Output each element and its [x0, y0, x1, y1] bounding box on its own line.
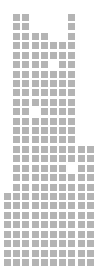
grid-cell — [59, 136, 66, 143]
grid-cell — [41, 99, 48, 106]
grid-cell — [68, 108, 75, 115]
grid-cell — [13, 99, 20, 106]
grid-cell — [59, 118, 66, 125]
grid-cell — [50, 80, 57, 87]
grid-cell — [32, 231, 39, 238]
grid-cell — [32, 202, 39, 209]
grid-cell — [59, 52, 66, 59]
grid-cell — [32, 184, 39, 191]
grid-cell — [22, 259, 29, 266]
grid-cell — [41, 80, 48, 87]
grid-cell — [22, 33, 29, 40]
grid-cell — [22, 174, 29, 181]
grid-cell — [32, 146, 39, 153]
grid-cell — [59, 146, 66, 153]
grid-cell — [13, 155, 20, 162]
grid-cell — [50, 155, 57, 162]
grid-cell — [68, 212, 75, 219]
grid-cell — [4, 250, 11, 257]
grid-cell — [13, 146, 20, 153]
grid-cell — [50, 108, 57, 115]
grid-cell — [4, 193, 11, 200]
grid-cell — [87, 165, 94, 172]
grid-cell — [32, 71, 39, 78]
grid-cell — [50, 259, 57, 266]
grid-cell — [13, 184, 20, 191]
grid-cell — [4, 259, 11, 266]
grid-cell — [78, 212, 85, 219]
grid-cell — [50, 118, 57, 125]
grid-cell — [59, 89, 66, 96]
grid-cell — [4, 231, 11, 238]
grid-cell — [50, 212, 57, 219]
grid-cell — [50, 99, 57, 106]
grid-cell — [68, 52, 75, 59]
grid-cell — [41, 155, 48, 162]
grid-cell — [59, 184, 66, 191]
grid-cell — [41, 146, 48, 153]
grid-cell — [78, 155, 85, 162]
grid-cell — [59, 240, 66, 247]
grid-cell — [22, 23, 29, 30]
grid-cell — [87, 193, 94, 200]
grid-cell — [32, 99, 39, 106]
grid-cell — [68, 155, 75, 162]
grid-cell — [22, 52, 29, 59]
grid-cell — [50, 184, 57, 191]
grid-cell — [50, 52, 57, 59]
grid-cell — [22, 165, 29, 172]
grid-cell — [87, 231, 94, 238]
grid-cell — [32, 89, 39, 96]
grid-cell — [78, 250, 85, 257]
grid-cell — [41, 165, 48, 172]
grid-cell — [41, 118, 48, 125]
grid-cell — [50, 231, 57, 238]
grid-cell — [13, 250, 20, 257]
grid-cell — [22, 155, 29, 162]
grid-cell — [13, 221, 20, 228]
grid-cell — [13, 42, 20, 49]
grid-cell — [32, 259, 39, 266]
grid-cell — [41, 89, 48, 96]
grid-cell — [78, 221, 85, 228]
grid-cell — [32, 136, 39, 143]
grid-cell — [87, 221, 94, 228]
grid-cell — [59, 221, 66, 228]
grid-cell — [68, 127, 75, 134]
grid-cell — [13, 259, 20, 266]
grid-cell — [50, 174, 57, 181]
grid-cell — [13, 108, 20, 115]
grid-cell — [68, 71, 75, 78]
grid-cell — [13, 174, 20, 181]
grid-cell — [87, 250, 94, 257]
grid-cell — [41, 108, 48, 115]
grid-cell — [41, 212, 48, 219]
grid-cell — [22, 184, 29, 191]
grid-cell — [41, 71, 48, 78]
grid-cell — [4, 221, 11, 228]
grid-cell — [68, 80, 75, 87]
grid-cell — [13, 240, 20, 247]
grid-cell — [68, 118, 75, 125]
grid-cell — [50, 71, 57, 78]
grid-cell — [68, 250, 75, 257]
grid-cell — [68, 14, 75, 21]
grid-cell — [59, 127, 66, 134]
grid-cell — [59, 202, 66, 209]
grid-cell — [59, 231, 66, 238]
grid-cell — [22, 240, 29, 247]
grid-cell — [4, 202, 11, 209]
grid-cell — [22, 42, 29, 49]
grid-cell — [13, 80, 20, 87]
grid-cell — [41, 240, 48, 247]
grid-cell — [59, 155, 66, 162]
grid-cell — [41, 231, 48, 238]
grid-cell — [32, 33, 39, 40]
grid-cell — [68, 146, 75, 153]
grid-cell — [4, 240, 11, 247]
grid-cell — [32, 155, 39, 162]
grid-cell — [22, 127, 29, 134]
grid-cell — [50, 127, 57, 134]
grid-cell — [32, 42, 39, 49]
grid-cell — [13, 52, 20, 59]
